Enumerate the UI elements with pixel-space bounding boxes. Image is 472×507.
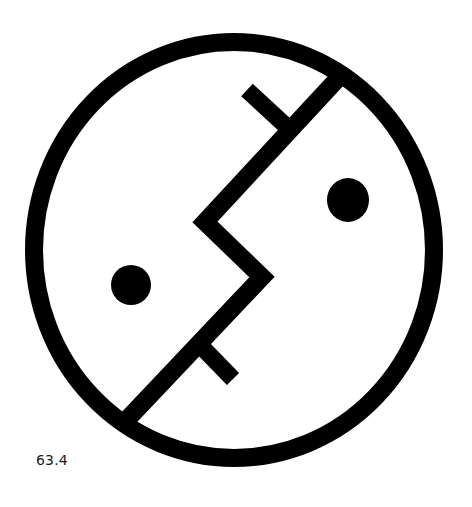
emblem-figure xyxy=(0,0,472,507)
lower-branch-stub xyxy=(197,342,233,379)
left-eye-dot xyxy=(111,265,151,305)
figure-caption: 63.4 xyxy=(36,452,68,468)
upper-branch-stub xyxy=(247,90,286,126)
right-eye-dot xyxy=(327,178,369,222)
